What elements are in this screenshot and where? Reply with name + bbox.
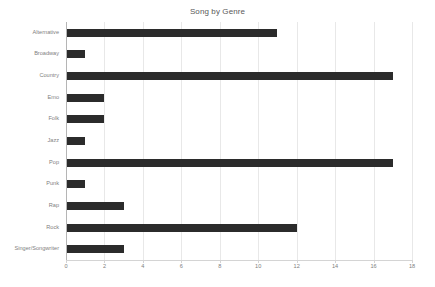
bar-row — [66, 159, 412, 167]
tick-mark — [412, 260, 413, 263]
value-tick-label: 8 — [218, 264, 221, 270]
tick-mark — [220, 260, 221, 263]
tick-mark — [297, 260, 298, 263]
value-tick-label: 12 — [294, 264, 300, 270]
category-label: Singer/Songwriter — [15, 246, 59, 252]
gridline — [412, 22, 413, 260]
bar-alternative[interactable] — [66, 29, 277, 37]
bar-country[interactable] — [66, 72, 393, 80]
bar-folk[interactable] — [66, 115, 104, 123]
bar-row — [66, 245, 412, 253]
bar-punk[interactable] — [66, 180, 85, 188]
category-label: Folk — [48, 116, 59, 122]
bar-row — [66, 137, 412, 145]
value-tick-label: 4 — [141, 264, 144, 270]
value-axis-tick-labels: 024681012141618 — [66, 264, 412, 278]
category-label: Jazz — [47, 138, 59, 144]
category-axis-labels: AlternativeBroadwayCountryEmoFolkJazzPop… — [0, 22, 63, 260]
bar-rock[interactable] — [66, 224, 297, 232]
bar-row — [66, 180, 412, 188]
category-label: Rap — [49, 203, 59, 209]
category-label: Rock — [46, 225, 59, 231]
category-label: Alternative — [33, 30, 59, 36]
bars-layer — [66, 22, 412, 260]
category-label: Punk — [46, 181, 59, 187]
category-label: Emo — [47, 95, 59, 101]
tick-mark — [374, 260, 375, 263]
value-tick-label: 14 — [332, 264, 338, 270]
bar-chart: Song by Genre AlternativeBroadwayCountry… — [0, 0, 435, 287]
value-axis-line — [66, 22, 67, 260]
value-tick-label: 18 — [409, 264, 415, 270]
tick-mark — [143, 260, 144, 263]
tick-mark — [258, 260, 259, 263]
bar-row — [66, 94, 412, 102]
bar-row — [66, 29, 412, 37]
chart-title: Song by Genre — [0, 7, 435, 16]
tick-mark — [181, 260, 182, 263]
value-tick-label: 16 — [370, 264, 376, 270]
category-label: Country — [39, 73, 59, 79]
bar-row — [66, 115, 412, 123]
bar-pop[interactable] — [66, 159, 393, 167]
bar-emo[interactable] — [66, 94, 104, 102]
plot-area — [66, 22, 412, 260]
tick-mark — [104, 260, 105, 263]
bar-singer-songwriter[interactable] — [66, 245, 124, 253]
bar-broadway[interactable] — [66, 50, 85, 58]
bar-rap[interactable] — [66, 202, 124, 210]
bar-row — [66, 224, 412, 232]
bar-row — [66, 50, 412, 58]
value-tick-label: 10 — [255, 264, 261, 270]
value-tick-label: 6 — [180, 264, 183, 270]
bar-jazz[interactable] — [66, 137, 85, 145]
bar-row — [66, 72, 412, 80]
value-tick-label: 0 — [64, 264, 67, 270]
category-axis-line — [66, 260, 412, 261]
category-label: Broadway — [34, 51, 59, 57]
tick-mark — [66, 260, 67, 263]
value-tick-label: 2 — [103, 264, 106, 270]
category-label: Pop — [49, 160, 59, 166]
tick-mark — [335, 260, 336, 263]
bar-row — [66, 202, 412, 210]
